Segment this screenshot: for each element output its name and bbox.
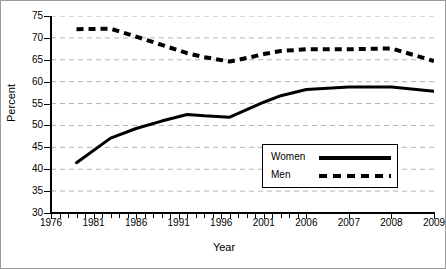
x-axis-tick-labels: 1976198119861991199620012006200720082009 — [1, 217, 446, 233]
legend-item-women: Women — [271, 150, 391, 166]
y-tick-label: 70 — [19, 33, 43, 43]
y-tick-label: 55 — [19, 99, 43, 109]
y-tick-mark — [44, 104, 50, 105]
y-tick-label: 40 — [19, 164, 43, 174]
x-tick-label: 2008 — [380, 217, 402, 228]
y-tick-mark — [44, 125, 50, 126]
x-axis-line — [50, 212, 435, 214]
legend-label-women: Women — [271, 151, 305, 162]
legend-swatch-men — [319, 174, 391, 178]
x-tick-label: 1976 — [40, 217, 62, 228]
y-tick-mark — [44, 147, 50, 148]
chart-figure: 30354045505560657075 1976198119861991199… — [0, 0, 446, 269]
y-tick-mark — [44, 169, 50, 170]
x-tick-label: 1991 — [168, 217, 190, 228]
y-axis-title: Percent — [5, 63, 17, 143]
legend-label-men: Men — [271, 169, 290, 180]
legend-swatch-women — [319, 156, 391, 160]
x-axis-title: Year — [1, 241, 446, 253]
y-tick-mark — [44, 38, 50, 39]
x-tick-label: 2006 — [295, 217, 317, 228]
y-tick-mark — [44, 16, 50, 17]
series-lines — [77, 29, 434, 163]
y-tick-mark — [44, 60, 50, 61]
series-line-men — [77, 29, 434, 62]
legend-item-men: Men — [271, 168, 391, 184]
y-axis-line — [50, 16, 52, 214]
y-tick-label: 65 — [19, 55, 43, 65]
y-tick-label: 35 — [19, 186, 43, 196]
y-tick-label: 60 — [19, 77, 43, 87]
x-tick-label: 1986 — [125, 217, 147, 228]
x-tick-label: 2007 — [338, 217, 360, 228]
y-tick-mark — [44, 82, 50, 83]
x-tick-label: 1981 — [82, 217, 104, 228]
chart-legend: Women Men — [262, 144, 398, 188]
y-tick-mark — [44, 191, 50, 192]
x-tick-label: 2001 — [253, 217, 275, 228]
y-tick-label: 50 — [19, 120, 43, 130]
y-tick-label: 75 — [19, 11, 43, 21]
x-tick-label: 1996 — [210, 217, 232, 228]
y-tick-label: 45 — [19, 142, 43, 152]
x-tick-label: 2009 — [423, 217, 445, 228]
